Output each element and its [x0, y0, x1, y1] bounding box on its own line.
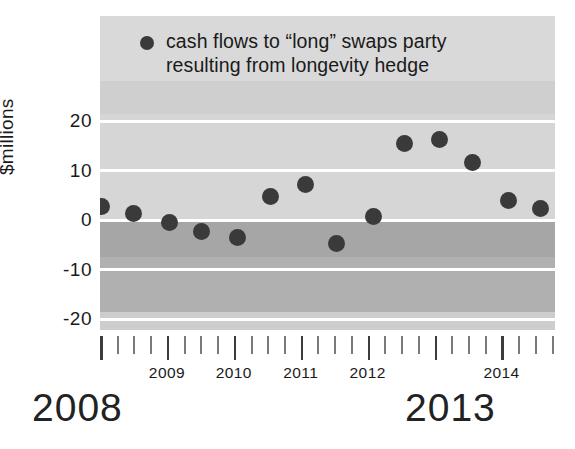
x-tick-minor [401, 336, 403, 354]
x-axis-ticks [100, 336, 555, 362]
data-point [229, 229, 246, 246]
display-year-end: 2013 [405, 386, 496, 430]
x-tick-minor [334, 336, 336, 354]
data-point [396, 135, 413, 152]
y-tick-label: 20 [22, 110, 92, 132]
background-band [100, 81, 555, 113]
x-tick-label: 2014 [483, 364, 519, 382]
background-band [100, 114, 555, 220]
legend: cash flows to “long” swaps party resulti… [140, 30, 447, 78]
legend-marker-icon [140, 36, 154, 50]
gridline [100, 169, 555, 172]
x-tick-major [234, 336, 237, 360]
gridline [100, 268, 555, 271]
chart-figure: cash flows to “long” swaps party resulti… [0, 0, 575, 449]
x-tick-minor [117, 336, 119, 354]
x-tick-minor [267, 336, 269, 354]
background-band [100, 257, 555, 311]
x-tick-minor [150, 336, 152, 354]
x-tick-minor [552, 336, 554, 354]
legend-label: cash flows to “long” swaps party resulti… [166, 30, 447, 78]
y-axis-title: $millions [0, 98, 18, 175]
data-point [500, 192, 517, 209]
data-point [193, 223, 210, 240]
x-tick-minor [468, 336, 470, 354]
x-tick-label: 2012 [350, 364, 386, 382]
display-year-start: 2008 [32, 386, 123, 430]
x-tick-minor [317, 336, 319, 354]
gridline [100, 318, 555, 321]
background-band [100, 312, 555, 330]
data-point [161, 214, 178, 231]
data-point [262, 188, 279, 205]
x-tick-major [501, 336, 504, 360]
x-tick-major [435, 336, 438, 360]
y-tick-label: -10 [22, 259, 92, 281]
data-point [365, 208, 382, 225]
data-point [297, 176, 314, 193]
x-tick-minor [200, 336, 202, 354]
x-tick-minor [518, 336, 520, 354]
x-tick-minor [284, 336, 286, 354]
data-point [328, 235, 345, 252]
data-point [464, 154, 481, 171]
x-tick-major [368, 336, 371, 360]
x-tick-label: 2009 [149, 364, 185, 382]
x-tick-minor [384, 336, 386, 354]
x-tick-major [167, 336, 170, 360]
x-tick-minor [133, 336, 135, 354]
x-tick-minor [217, 336, 219, 354]
data-point [431, 131, 448, 148]
y-axis: $millions 20100-10-20 [0, 0, 100, 449]
gridline [100, 120, 555, 123]
y-tick-label: 10 [22, 160, 92, 182]
x-tick-minor [351, 336, 353, 354]
y-tick-label: -20 [22, 308, 92, 330]
x-tick-label: 2011 [283, 364, 318, 382]
x-tick-minor [451, 336, 453, 354]
y-tick-label: 0 [22, 209, 92, 231]
x-tick-minor [184, 336, 186, 354]
x-tick-minor [418, 336, 420, 354]
x-tick-minor [485, 336, 487, 354]
x-tick-major [301, 336, 304, 360]
x-tick-label: 2010 [216, 364, 252, 382]
data-point [532, 200, 549, 217]
x-tick-major [100, 336, 103, 360]
data-point [125, 205, 142, 222]
x-tick-minor [251, 336, 253, 354]
x-tick-minor [535, 336, 537, 354]
